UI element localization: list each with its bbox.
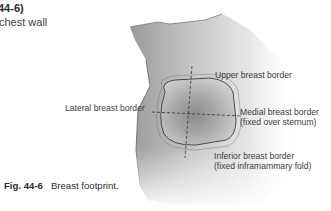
breast-outline	[161, 78, 236, 145]
figure-caption-text: Breast footprint.	[51, 180, 119, 191]
label-inferior-breast-border-note: (fixed inframammary fold)	[214, 161, 311, 171]
figure-caption: Fig. 44-6Breast footprint.	[4, 180, 119, 191]
label-medial-breast-border-note: (fixed over sternum)	[240, 117, 316, 127]
label-inferior-breast-border: Inferior breast border	[214, 151, 294, 161]
label-upper-breast-border: Upper breast border	[215, 70, 292, 80]
figure-number: Fig. 44-6	[4, 180, 43, 191]
label-medial-breast-border: Medial breast border	[240, 107, 319, 117]
label-lateral-breast-border: Lateral breast border	[65, 103, 145, 113]
